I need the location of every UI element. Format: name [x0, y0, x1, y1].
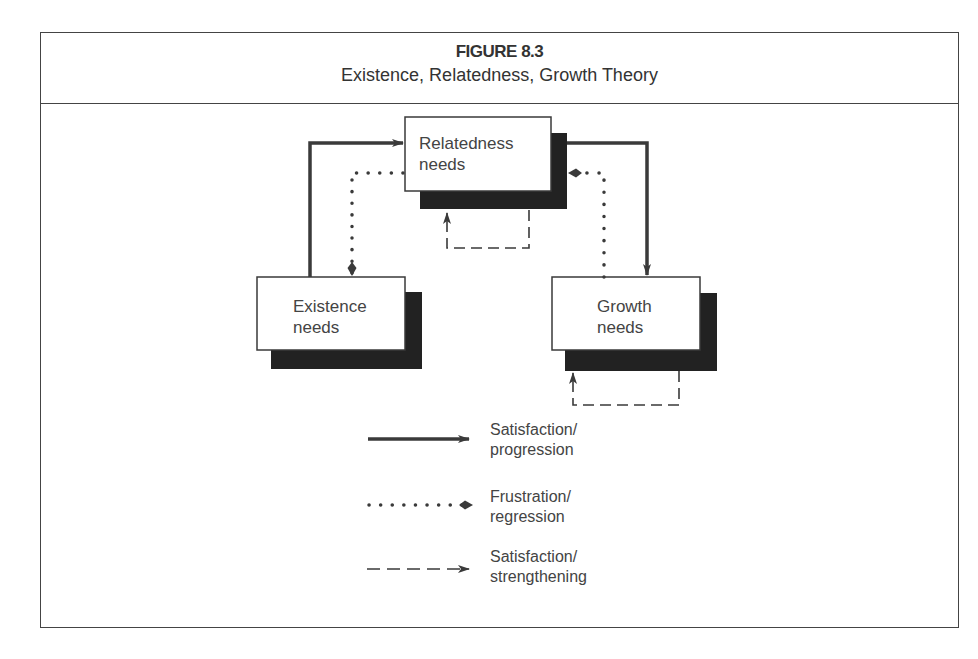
legend-dotted-line1: Frustration/ [490, 487, 571, 507]
existence-label-line1: Existence [293, 296, 367, 317]
edge-existence-to-relatedness [310, 143, 403, 277]
legend-lines [367, 439, 472, 569]
legend-item-dotted: Frustration/ regression [490, 487, 571, 527]
legend-solid-line1: Satisfaction/ [490, 420, 577, 440]
legend-item-dashed: Satisfaction/ strengthening [490, 547, 587, 587]
legend-solid-line2: progression [490, 440, 577, 460]
growth-label-line2: needs [597, 317, 652, 338]
relatedness-label: Relatedness needs [419, 133, 514, 175]
edge-relatedness-to-existence [352, 173, 403, 275]
legend-item-solid: Satisfaction/ progression [490, 420, 577, 460]
relatedness-label-line2: needs [419, 154, 514, 175]
existence-label-line2: needs [293, 317, 367, 338]
edge-growth-to-relatedness [569, 173, 604, 277]
legend-dashed-line2: strengthening [490, 567, 587, 587]
growth-label-line1: Growth [597, 296, 652, 317]
existence-label: Existence needs [293, 296, 367, 338]
relatedness-label-line1: Relatedness [419, 133, 514, 154]
edge-relatedness-to-growth [567, 143, 647, 275]
legend-dotted-line2: regression [490, 507, 571, 527]
erg-diagram [0, 0, 978, 659]
growth-label: Growth needs [597, 296, 652, 338]
edge-growth-self [573, 371, 679, 405]
edge-relatedness-self [447, 210, 529, 248]
legend-dashed-line1: Satisfaction/ [490, 547, 587, 567]
